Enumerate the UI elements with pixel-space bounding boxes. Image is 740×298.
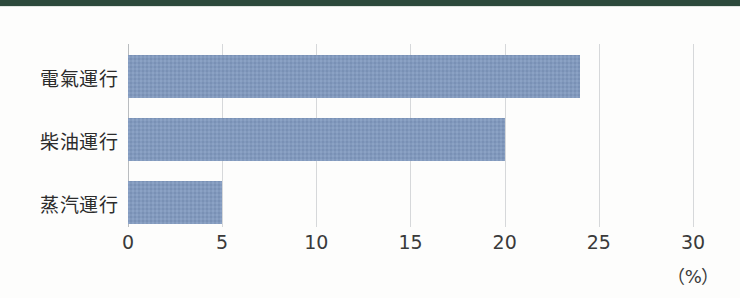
bar-2	[128, 118, 505, 161]
category-label-2: 柴油運行	[0, 127, 118, 154]
category-label-3: 蒸汽運行	[0, 190, 118, 217]
gridline-25	[599, 44, 600, 227]
horizontal-bar-chart: 電氣運行柴油運行蒸汽運行 051015202530 （%）	[0, 0, 740, 298]
bar-1	[128, 55, 580, 98]
axis-unit-label: （%）	[653, 262, 733, 288]
x-tick-label-0: 0	[98, 231, 158, 253]
x-tick-label-5: 5	[192, 231, 252, 253]
x-tick-label-15: 15	[380, 231, 440, 253]
x-tick-label-10: 10	[286, 231, 346, 253]
chart-page: 電氣運行柴油運行蒸汽運行 051015202530 （%）	[0, 0, 740, 298]
bar-3	[128, 181, 222, 224]
x-tick-label-25: 25	[569, 231, 629, 253]
x-tick-label-30: 30	[663, 231, 723, 253]
x-tick-label-20: 20	[475, 231, 535, 253]
gridline-30	[693, 44, 694, 227]
category-label-1: 電氣運行	[0, 64, 118, 91]
